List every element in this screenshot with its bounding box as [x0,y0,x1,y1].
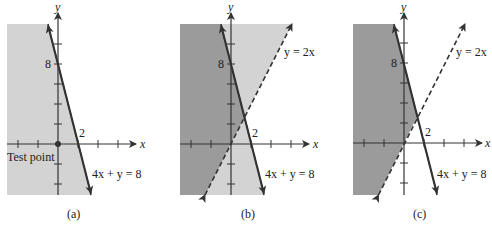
line-label-4x-plus-y-eq-8: 4x + y = 8 [92,167,142,181]
y-tick-label-8: 8 [391,56,397,70]
x-tick-label-2: 2 [252,126,258,140]
shaded-region-light [7,24,91,195]
shaded-region-dark-solution [353,24,417,195]
y-tick-label-8: 8 [45,57,51,71]
caption-b: (b) [241,207,255,221]
x-axis-label: x [484,136,491,150]
x-tick-label-2: 2 [79,126,85,140]
x-axis-label: x [139,137,146,151]
caption-c: (c) [413,207,426,221]
y-tick-label-8: 8 [218,57,224,71]
line-label-y-eq-2x: y = 2x [456,45,487,59]
panel-a: y x 8 2 Test point 4x + y = 8 (a) [7,0,146,221]
y-axis-label: y [54,0,61,14]
line-label-4x-plus-y-eq-8: 4x + y = 8 [265,167,315,181]
y-axis-label: y [227,0,234,14]
x-tick-label-2: 2 [425,125,431,139]
panel-c: y x 8 2 y = 2x 4x + y = 8 (c) [353,0,491,221]
y-axis-label: y [400,0,407,14]
test-point-marker [55,141,61,147]
panel-b: y x 8 2 y = 2x 4x + y = 8 (b) [180,0,319,221]
line-label-y-eq-2x: y = 2x [284,45,315,59]
x-axis-label: x [312,137,319,151]
test-point-label: Test point [7,150,55,164]
figure: y x 8 2 Test point 4x + y = 8 (a) y x 8 … [0,0,492,230]
line-label-4x-plus-y-eq-8: 4x + y = 8 [437,167,487,181]
caption-a: (a) [67,207,80,221]
